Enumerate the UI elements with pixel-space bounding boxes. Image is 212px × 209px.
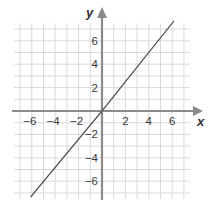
x-tick-label: −4 bbox=[47, 115, 61, 127]
x-tick-label: −6 bbox=[23, 115, 36, 127]
y-tick-label: −4 bbox=[85, 152, 99, 164]
coordinate-plane: −6−4−2246 −6−4−2246 x y bbox=[0, 0, 212, 209]
x-axis-label: x bbox=[196, 114, 205, 129]
y-tick-label: −6 bbox=[85, 175, 98, 187]
y-tick-label: 2 bbox=[92, 82, 98, 94]
y-tick-label: −2 bbox=[85, 128, 98, 140]
x-tick-label: 4 bbox=[146, 115, 153, 127]
y-tick-label: 6 bbox=[92, 35, 98, 47]
x-tick-label: 6 bbox=[169, 115, 175, 127]
x-tick-labels: −6−4−2246 bbox=[23, 115, 175, 127]
y-axis-arrow-icon bbox=[97, 7, 107, 18]
x-tick-label: 2 bbox=[122, 115, 128, 127]
y-axis-label: y bbox=[85, 5, 94, 20]
y-tick-label: 4 bbox=[92, 58, 99, 70]
x-tick-label: −2 bbox=[70, 115, 83, 127]
